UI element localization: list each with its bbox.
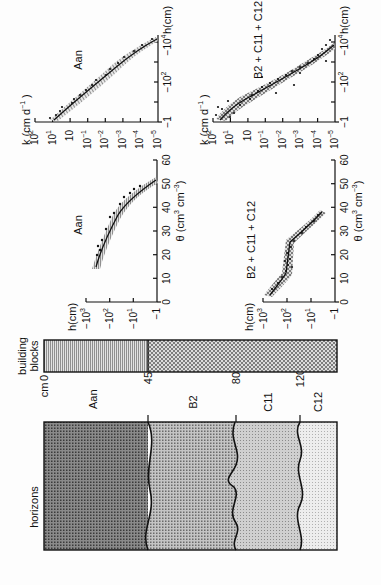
- svg-text:0: 0: [339, 299, 350, 305]
- building-blocks-title-2: blocks: [28, 340, 40, 372]
- k-chart1-xlabel: h(cm): [161, 6, 173, 34]
- svg-text:40: 40: [161, 201, 172, 213]
- rotated-figure: horizons Aan cm 0 45 80: [0, 0, 381, 585]
- svg-text:−102: −102: [337, 71, 350, 92]
- depth-labels: cm 0 45 80 120 B2 C11 C12: [38, 369, 324, 412]
- svg-text:0: 0: [161, 299, 172, 305]
- building-blocks-title-1: building: [16, 337, 28, 375]
- theta-chart1-ylabel: h(cm): [66, 303, 78, 331]
- svg-text:−1: −1: [151, 308, 162, 320]
- svg-text:10−4: 10−4: [132, 130, 145, 149]
- building-blocks-panel: building blocks: [16, 337, 337, 375]
- svg-text:10: 10: [161, 272, 172, 284]
- svg-text:10−1: 10−1: [80, 130, 93, 149]
- svg-text:50: 50: [161, 178, 172, 190]
- svg-text:10−2: 10−2: [97, 130, 110, 149]
- svg-text:10−5: 10−5: [327, 130, 340, 149]
- svg-text:−1: −1: [162, 116, 173, 128]
- horizon-label-b2: B2: [187, 395, 199, 408]
- svg-text:−104: −104: [160, 34, 173, 55]
- figure-page: horizons Aan cm 0 45 80: [0, 0, 381, 585]
- horizon-aan-fill: [44, 422, 148, 550]
- horizon-label-aan: Aan: [87, 389, 99, 409]
- chart-k-aan: −1 −102 −104 h(cm) 10−5 10−4 10−3 10−2 1…: [19, 6, 173, 149]
- horizon-c12-fill: [297, 422, 337, 550]
- svg-text:30: 30: [339, 225, 350, 237]
- svg-text:20: 20: [339, 249, 350, 261]
- svg-text:10−1: 10−1: [257, 130, 270, 149]
- k-chart2-xlabel: h(cm): [338, 6, 350, 34]
- svg-text:10−5: 10−5: [150, 130, 163, 149]
- svg-text:10: 10: [339, 272, 350, 284]
- chart-theta-aan: 0 10 20 30 40 50 60 −1 −101 −102 −103 h(…: [66, 154, 186, 331]
- svg-text:−102: −102: [280, 308, 293, 329]
- svg-text:10−4: 10−4: [310, 130, 323, 149]
- theta-chart1-xlabel: θ (cm3 cm−3): [173, 181, 186, 242]
- depth-tick-80: 80: [230, 372, 242, 384]
- depth-tick-0: 0: [38, 375, 50, 381]
- svg-text:101: 101: [222, 130, 235, 145]
- k-chart1-ylabel: k (cm d−1 ): [19, 94, 32, 145]
- svg-text:−103: −103: [256, 308, 269, 329]
- depth-unit: cm: [38, 383, 50, 398]
- chart-theta-b2: 0 10 20 30 40 50 60 −1 −101 −102 −103 h(…: [243, 154, 364, 331]
- svg-text:−1: −1: [329, 308, 340, 320]
- horizon-label-c11: C11: [262, 392, 274, 411]
- chart-k-b2: −1 −102 −104 h(cm) 10−5 10−4 10−3 10−2 1…: [197, 1, 350, 149]
- svg-text:30: 30: [161, 225, 172, 237]
- k-chart1-title: Aan: [72, 50, 84, 70]
- theta-chart2-title: B2 + C11 + C12: [245, 201, 257, 279]
- svg-text:−101: −101: [126, 308, 139, 329]
- k-chart2-title: B2 + C11 + C12: [252, 1, 264, 79]
- depth-tick-45: 45: [142, 372, 154, 384]
- block-aan: [44, 340, 148, 372]
- svg-text:60: 60: [161, 154, 172, 166]
- theta-chart1-band: [92, 177, 158, 269]
- theta-chart2-band: [264, 210, 326, 297]
- svg-text:10−3: 10−3: [115, 130, 128, 149]
- horizon-label-c12: C12: [312, 392, 324, 412]
- svg-text:50: 50: [339, 178, 350, 190]
- svg-text:10: 10: [242, 130, 253, 142]
- svg-text:−102: −102: [102, 308, 115, 329]
- svg-text:−101: −101: [304, 308, 317, 329]
- horizon-c11-fill: [228, 422, 302, 550]
- theta-chart1-title: Aan: [72, 215, 84, 235]
- horizons-title: horizons: [28, 486, 40, 528]
- svg-text:101: 101: [45, 130, 58, 145]
- svg-text:20: 20: [161, 249, 172, 261]
- svg-text:10−2: 10−2: [275, 130, 288, 149]
- svg-text:−102: −102: [160, 71, 173, 92]
- horizon-b2-region: [146, 422, 238, 550]
- horizons-panel: horizons Aan: [28, 389, 337, 550]
- theta-chart2-ylabel: h(cm): [243, 303, 255, 331]
- svg-text:40: 40: [339, 201, 350, 213]
- svg-text:10−3: 10−3: [292, 130, 305, 149]
- svg-text:−1: −1: [339, 116, 350, 128]
- svg-text:−103: −103: [79, 308, 92, 329]
- svg-text:−104: −104: [337, 34, 350, 55]
- k-chart2-ylabel: k (cm d−1 ): [197, 94, 210, 145]
- block-b2-c11-c12: [148, 340, 337, 372]
- svg-text:10: 10: [64, 130, 75, 142]
- svg-text:60: 60: [339, 154, 350, 166]
- theta-chart2-xlabel: θ (cm3 cm−3): [351, 181, 364, 242]
- theta-chart1-curve: [96, 180, 156, 267]
